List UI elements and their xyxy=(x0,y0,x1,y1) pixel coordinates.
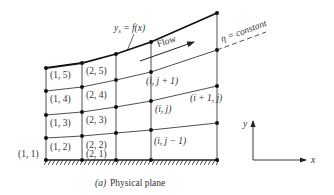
grid-node xyxy=(149,158,153,162)
grid-node xyxy=(114,105,118,109)
grid-node xyxy=(114,131,118,135)
solid-wall xyxy=(44,160,219,165)
grid-node xyxy=(44,113,48,117)
node-label: (2, 1) xyxy=(86,149,107,160)
grid-nodes xyxy=(44,11,219,162)
node-label: (1, 1) xyxy=(18,149,39,160)
grid-node xyxy=(80,110,84,114)
node-label: (1, 2) xyxy=(50,142,71,153)
x-axis-label: x xyxy=(310,155,316,165)
node-index-labels: (1, 5)(2, 5)(1, 4)(2, 4)(1, 3)(2, 3)(1, … xyxy=(18,66,222,160)
grid-node xyxy=(80,134,84,138)
node-label: (1, 4) xyxy=(50,94,71,105)
boundary-function-label: ys = f(x) xyxy=(113,23,145,34)
grid-node xyxy=(80,85,84,89)
node-label: (i, j) xyxy=(155,104,171,115)
grid-node xyxy=(215,121,219,125)
grid-node xyxy=(215,84,219,88)
grid-node xyxy=(44,136,48,140)
node-label: (i, j − 1) xyxy=(154,136,186,147)
node-label: (1, 3) xyxy=(50,118,71,129)
grid-node xyxy=(149,40,153,44)
node-label: (1, 5) xyxy=(50,70,71,81)
grid-node xyxy=(149,128,153,132)
grid-node xyxy=(44,158,48,162)
grid-node xyxy=(44,89,48,93)
grid-node xyxy=(215,11,219,15)
eta-grid-line xyxy=(46,50,217,91)
node-label: (2, 5) xyxy=(86,66,107,77)
flow-label: Flow xyxy=(156,34,178,49)
grid-node xyxy=(80,61,84,65)
grid-node xyxy=(215,158,219,162)
physical-plane-diagram: η = constant ys = f(x) Flow (1, 5)(2, 5)… xyxy=(0,0,334,195)
coordinate-axes: y x xyxy=(242,119,316,165)
grid-lines xyxy=(46,13,217,160)
node-label: (2, 3) xyxy=(86,115,107,126)
eta-grid-line xyxy=(46,123,217,138)
node-label: (i, j + 1) xyxy=(146,76,178,87)
grid-node xyxy=(44,66,48,70)
grid-node xyxy=(80,158,84,162)
node-label: (i + 1, j) xyxy=(190,93,222,104)
grid-node xyxy=(114,78,118,82)
grid-node xyxy=(149,70,153,74)
grid-node xyxy=(114,158,118,162)
node-label: (2, 4) xyxy=(86,90,107,101)
grid-node xyxy=(114,52,118,56)
y-axis-label: y xyxy=(242,119,248,129)
figure-caption: (a)Physical plane xyxy=(95,178,165,189)
grid-node xyxy=(149,99,153,103)
